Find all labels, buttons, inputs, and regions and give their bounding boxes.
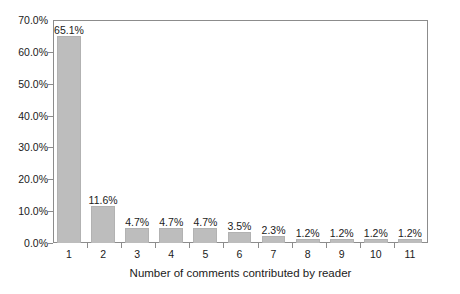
bar-chart: 0.0% 10.0% 20.0% 30.0% 40.0% 50.0% 60.0%… [0,0,460,294]
y-tick-label-10: 10.0% [18,206,48,217]
x-axis-label-group: 1 2 3 4 5 6 7 8 9 10 11 [53,248,428,263]
y-tick-label-40: 40.0% [18,110,48,121]
bar-value-label-7: 2.3% [262,224,286,236]
x-tick-label-5: 5 [202,248,208,261]
bar-value-label-10: 1.2% [364,227,388,239]
y-tick-label-0: 0.0% [24,238,48,249]
y-tick-label-20: 20.0% [18,174,48,185]
y-tick-label-70: 70.0% [18,15,48,26]
bar-value-label-8: 1.2% [296,227,320,239]
x-axis-title: Number of comments contributed by reader [53,266,428,280]
x-tick-label-7: 7 [271,248,277,261]
bar-value-label-2: 11.6% [89,194,118,206]
bar-value-label-4: 4.7% [159,216,183,228]
x-tick-label-1: 1 [66,248,72,261]
bar-value-label-11: 1.2% [398,227,422,239]
bar-4[interactable] [159,228,183,243]
y-tick-label-60: 60.0% [18,46,48,57]
bar-value-label-3: 4.7% [125,216,149,228]
x-tick-label-9: 9 [339,248,345,261]
x-tick-label-6: 6 [237,248,243,261]
bar-1[interactable] [57,36,81,243]
bar-value-label-6: 3.5% [227,220,251,232]
bar-value-label-5: 4.7% [193,216,217,228]
y-tick-label-30: 30.0% [18,142,48,153]
bar-7[interactable] [262,236,286,243]
y-axis-label-group: 0.0% 10.0% 20.0% 30.0% 40.0% 50.0% 60.0%… [0,20,48,243]
bar-6[interactable] [228,232,252,243]
bar-value-label-9: 1.2% [330,227,354,239]
bar-2[interactable] [91,206,115,243]
x-tick-label-3: 3 [134,248,140,261]
bar-value-label-1: 65.1% [54,24,84,36]
y-tick-label-50: 50.0% [18,78,48,89]
x-tick-label-2: 2 [100,248,106,261]
x-tick-label-4: 4 [168,248,174,261]
bar-5[interactable] [193,228,217,243]
x-tick-label-11: 11 [404,248,415,261]
x-tick-label-8: 8 [305,248,311,261]
bars-layer: 65.1% 11.6% 4.7% 4.7% 4.7% 3.5% 2.3% 1.2… [53,20,428,243]
bar-3[interactable] [125,228,149,243]
x-tick-label-10: 10 [370,248,382,261]
